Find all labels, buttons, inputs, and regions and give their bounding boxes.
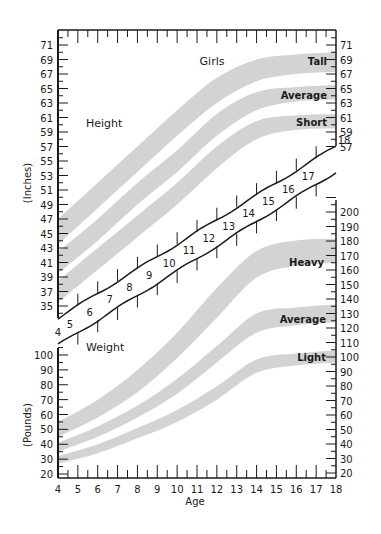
weight-tick-label-right: 20	[340, 468, 353, 479]
ribbon-age-label: 5	[67, 319, 73, 330]
weight-axis-title: (Pounds)	[22, 403, 33, 447]
age-tick-label: 14	[250, 484, 263, 495]
weight-tick-label-left: 20	[40, 469, 53, 480]
height-tick-label-left: 37	[40, 287, 53, 298]
weight-tick-label-left: 90	[40, 365, 53, 376]
height-tick-label-left: 59	[40, 127, 53, 138]
height-tick-label-right: 71	[340, 40, 353, 51]
growth-chart: 4567891011121314151617183537394143454749…	[0, 0, 381, 534]
age-tick-label: 8	[134, 484, 140, 495]
height-tick-label-left: 41	[40, 258, 53, 269]
weight-tick-label-right: 150	[340, 280, 359, 291]
ribbon-age-label: 15	[262, 196, 275, 207]
weight-tick-label-right: 110	[340, 338, 359, 349]
ribbon-age-label: 6	[87, 307, 93, 318]
ribbon-age-label: 14	[242, 208, 255, 219]
age-tick-label: 13	[230, 484, 243, 495]
height-tick-label-left: 67	[40, 69, 53, 80]
weight-tick-label-left: 100	[34, 350, 53, 361]
band-label-light: Light	[297, 352, 326, 363]
band-label-tall: Tall	[308, 56, 327, 67]
band-label-short: Short	[296, 117, 327, 128]
band-label-average-height: Average	[281, 90, 328, 101]
height-tick-label-left: 49	[40, 200, 53, 211]
height-tick-label-left: 69	[40, 55, 53, 66]
weight-tick-label-left: 50	[40, 424, 53, 435]
weight-tick-label-left: 40	[40, 439, 53, 450]
weight-tick-label-right: 60	[340, 410, 353, 421]
age-tick-label: 18	[330, 484, 343, 495]
band-label-average-weight: Average	[280, 314, 327, 325]
ribbon-age-label: 9	[146, 270, 152, 281]
ribbon-age-label: 10	[163, 258, 176, 269]
ribbon-age-label: 8	[126, 282, 132, 293]
weight-tick-label-right: 80	[340, 381, 353, 392]
height-tick-label-left: 53	[40, 171, 53, 182]
height-axis-title: (Inches)	[22, 163, 33, 203]
weight-tick-label-right: 180	[340, 236, 359, 247]
height-tick-label-right: 63	[340, 98, 353, 109]
weight-tick-label-left: 70	[40, 395, 53, 406]
weight-tick-label-right: 170	[340, 251, 359, 262]
x-axis-title: Age	[185, 496, 204, 507]
age-tick-label: 16	[290, 484, 303, 495]
weight-tick-label-right: 50	[340, 425, 353, 436]
height-tick-label-left: 43	[40, 243, 53, 254]
weight-tick-label-right: 120	[340, 323, 359, 334]
weight-tick-label-right: 160	[340, 265, 359, 276]
weight-tick-label-right: 30	[340, 454, 353, 465]
height-tick-label-left: 61	[40, 113, 53, 124]
weight-tick-label-left: 80	[40, 380, 53, 391]
height-tick-label-right: 61	[340, 113, 353, 124]
weight-tick-label-right: 130	[340, 309, 359, 320]
ribbon-age-label: 12	[202, 233, 215, 244]
age-tick-label: 4	[55, 484, 61, 495]
weight-tick-label-right: 70	[340, 396, 353, 407]
age-tick-label: 17	[310, 484, 323, 495]
weight-tick-label-right: 190	[340, 222, 359, 233]
weight-tick-label-right: 140	[340, 294, 359, 305]
ribbon-age-label: 4	[55, 327, 61, 338]
weight-tick-label-right: 100	[340, 352, 359, 363]
ribbon-age-label: 17	[302, 171, 315, 182]
height-tick-label-left: 39	[40, 272, 53, 283]
height-panel-label: Height	[86, 117, 123, 130]
height-tick-label-left: 63	[40, 98, 53, 109]
age-tick-label: 12	[210, 484, 223, 495]
band-label-heavy: Heavy	[289, 257, 324, 268]
weight-panel-label: Weight	[86, 341, 125, 354]
weight-tick-label-left: 30	[40, 454, 53, 465]
age-tick-label: 11	[191, 484, 204, 495]
ribbon-age-label: 16	[282, 184, 295, 195]
height-tick-label-left: 45	[40, 229, 53, 240]
height-tick-label-right: 69	[340, 55, 353, 66]
weight-tick-label-right: 40	[340, 439, 353, 450]
height-tick-label-left: 47	[40, 214, 53, 225]
age-tick-label: 15	[270, 484, 283, 495]
weight-tick-label-right: 90	[340, 367, 353, 378]
ribbon-age-label: 18	[338, 135, 351, 146]
age-tick-label: 9	[154, 484, 160, 495]
weight-tick-label-right: 200	[340, 207, 359, 218]
weight-tick-label-left: 60	[40, 410, 53, 421]
height-tick-label-left: 55	[40, 156, 53, 167]
height-tick-label-right: 67	[340, 69, 353, 80]
age-tick-label: 6	[95, 484, 101, 495]
ribbon-age-label: 13	[222, 221, 235, 232]
height-tick-label-right: 65	[340, 84, 353, 95]
ribbon-age-label: 11	[183, 245, 196, 256]
chart-title: Girls	[200, 55, 225, 68]
height-tick-label-left: 35	[40, 301, 53, 312]
height-tick-label-left: 71	[40, 40, 53, 51]
height-tick-label-left: 65	[40, 84, 53, 95]
age-tick-label: 10	[171, 484, 184, 495]
age-tick-label: 5	[75, 484, 81, 495]
age-tick-label: 7	[114, 484, 120, 495]
height-tick-label-left: 57	[40, 142, 53, 153]
height-tick-label-left: 51	[40, 185, 53, 196]
ribbon-age-label: 7	[106, 294, 112, 305]
